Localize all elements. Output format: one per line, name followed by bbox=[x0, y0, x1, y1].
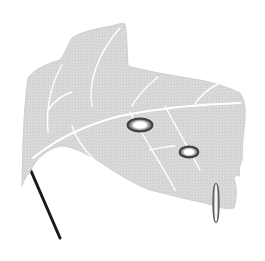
leaf-diagram bbox=[0, 0, 265, 261]
leaf-illustration bbox=[0, 0, 265, 261]
lesion-1 bbox=[127, 118, 153, 132]
droplet bbox=[213, 183, 219, 223]
petiole bbox=[31, 171, 60, 238]
leaf-blade bbox=[22, 24, 245, 209]
lesion-2 bbox=[179, 146, 199, 158]
